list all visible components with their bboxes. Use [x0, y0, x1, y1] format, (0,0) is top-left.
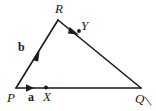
segment-PR — [16, 20, 58, 88]
geometry-figure: P Q R X Y a b — [0, 0, 156, 111]
vertex-label-R: R — [55, 2, 63, 15]
triangle-diagram-svg — [0, 0, 156, 111]
vertex-label-P: P — [7, 91, 15, 104]
vector-label-b: b — [18, 41, 25, 53]
vertex-label-Q: Q — [135, 92, 144, 105]
vector-label-a: a — [28, 91, 34, 103]
point-label-Y: Y — [81, 19, 88, 32]
point-label-X: X — [43, 90, 51, 103]
vector-b-arrowhead — [33, 52, 40, 62]
corner-tick-icon — [145, 97, 151, 105]
